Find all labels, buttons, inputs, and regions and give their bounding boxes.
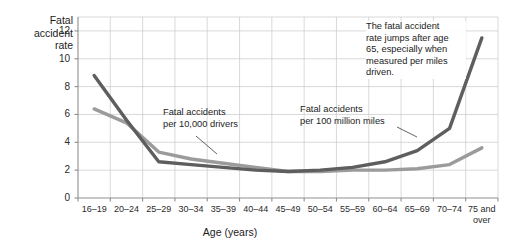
x-tick-label: 20–24 (109, 204, 143, 215)
x-tick-label: 16–19 (77, 204, 111, 215)
y-tick-label: 4 (48, 136, 70, 147)
x-tick-label: 70–74 (433, 204, 467, 215)
x-tick-label: 40–44 (239, 204, 273, 215)
x-tick-label: 60–64 (368, 204, 402, 215)
y-tick-label: 10 (48, 53, 70, 64)
annotation-leader-line (397, 127, 417, 137)
series-line (94, 109, 482, 172)
y-tick-label: 8 (48, 81, 70, 92)
annotation-series-miles: Fatal accidents per 100 million miles (300, 104, 385, 127)
x-axis-title: Age (years) (170, 226, 290, 238)
fatal-accident-rate-chart: Fatal accident rate 024681012 16–1920–24… (0, 0, 513, 249)
x-tick-label: 25–29 (142, 204, 176, 215)
y-tick-label: 6 (48, 108, 70, 119)
annotation-leader-line (196, 136, 217, 154)
x-tick-label: 65–69 (400, 204, 434, 215)
x-tick-label: 50–54 (303, 204, 337, 215)
x-tick-label: 35–39 (206, 204, 240, 215)
y-tick-label: 2 (48, 164, 70, 175)
x-tick-label: 55–59 (336, 204, 370, 215)
x-tick-label: 30–34 (174, 204, 208, 215)
y-tick-label: 0 (48, 192, 70, 203)
annotation-callout: The fatal accident rate jumps after age … (366, 21, 466, 79)
x-tick-label: 45–49 (271, 204, 305, 215)
x-tick-label: 75 and over (465, 204, 499, 225)
annotation-series-drivers: Fatal accidents per 10,000 drivers (163, 107, 238, 130)
y-tick-label: 12 (48, 25, 70, 36)
